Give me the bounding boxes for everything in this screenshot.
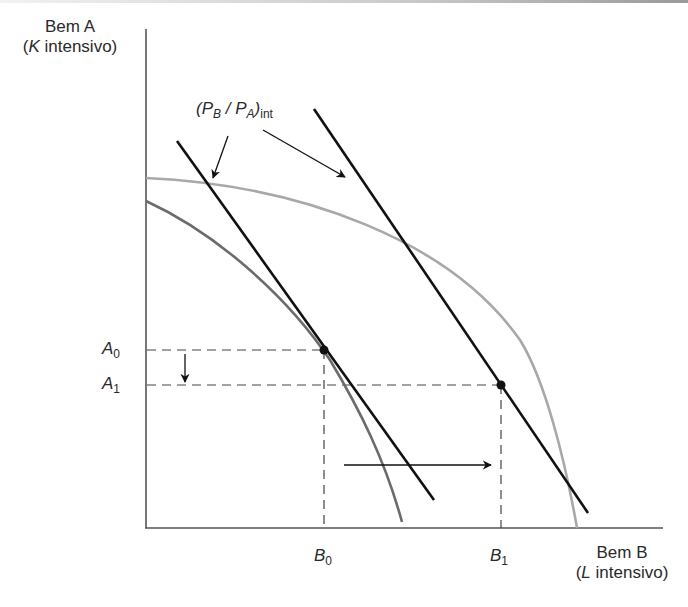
ppf-outer-curve bbox=[146, 178, 577, 528]
price-line-final bbox=[314, 109, 588, 513]
x-axis-label-line1: Bem B bbox=[566, 543, 678, 563]
tick-B0: B0 bbox=[314, 546, 332, 571]
x-axis-label-line2: (L intensivo) bbox=[566, 563, 678, 583]
price-line-initial bbox=[177, 141, 434, 500]
tick-A1: A1 bbox=[102, 374, 120, 399]
equilibrium-point-final bbox=[497, 381, 506, 390]
x-axis-label: Bem B (L intensivo) bbox=[566, 543, 678, 583]
diagram-canvas bbox=[0, 0, 688, 607]
tick-A0: A0 bbox=[102, 339, 120, 364]
guide-lines bbox=[147, 350, 501, 528]
y-axis-label-line1: Bem A bbox=[20, 17, 120, 37]
arrow-to-initial-price-line-icon bbox=[213, 136, 228, 178]
tick-B1: B1 bbox=[490, 546, 508, 571]
y-axis-label: Bem A (K intensivo) bbox=[20, 17, 120, 57]
price-ratio-label: (PB / PA)int bbox=[196, 99, 273, 124]
y-axis-label-line2: (K intensivo) bbox=[20, 37, 120, 57]
equilibrium-point-initial bbox=[320, 346, 329, 355]
